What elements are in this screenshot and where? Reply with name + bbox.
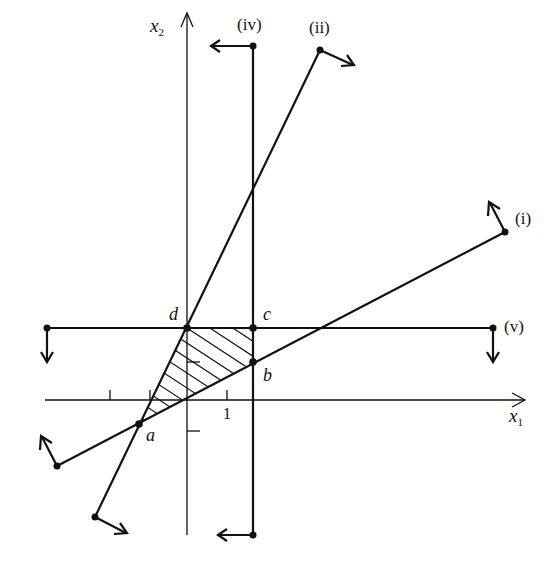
x2-axis [181, 13, 193, 535]
x1-axis [45, 393, 525, 407]
x1-tick-label-1: 1 [223, 406, 231, 422]
constraint-v-left-endpoint [44, 325, 51, 332]
vertex-c-point [249, 324, 257, 332]
constraint-label-iv: (iv) [237, 16, 262, 33]
vertex-label-b: b [263, 366, 272, 384]
vertex-a-point [135, 420, 143, 428]
constraint-ii-line [95, 50, 354, 534]
constraint-ii-lower-endpoint [92, 514, 99, 521]
x1-axis-label: x1 [509, 406, 523, 425]
constraint-label-v: (v) [504, 318, 524, 335]
vertex-b-point [249, 358, 257, 366]
constraint-i-upper-endpoint [502, 229, 509, 236]
constraint-label-ii: (ii) [309, 19, 330, 36]
feasible-region-hatching [60, 140, 320, 565]
constraint-v-right-endpoint [490, 325, 497, 332]
vertex-label-c: c [263, 305, 271, 323]
x2-axis-label: x2 [150, 16, 164, 35]
vertex-label-d: d [169, 305, 178, 323]
constraint-iv-top-endpoint [250, 43, 257, 50]
constraint-label-i: (i) [515, 210, 531, 227]
constraint-iv-bottom-endpoint [250, 532, 257, 539]
x2-axis-label-subscript: 2 [158, 26, 164, 38]
constraint-i-line [40, 202, 505, 466]
x1-axis-label-subscript: 1 [517, 416, 523, 428]
constraint-iv-line [211, 40, 253, 541]
vertex-label-a: a [146, 426, 155, 444]
vertex-d-point [183, 324, 191, 332]
constraint-ii-upper-endpoint [317, 47, 324, 54]
diagram-canvas [0, 0, 554, 578]
constraint-i-lower-endpoint [54, 463, 61, 470]
constraint-v-line [41, 328, 499, 362]
